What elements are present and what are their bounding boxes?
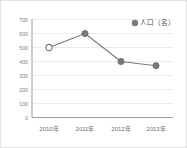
line-chart: 700 600 500 400 300 200 100 0 2010年 2011… <box>0 0 187 148</box>
data-point-2011[interactable] <box>82 30 88 36</box>
x-tick-label: 2012年 <box>111 125 130 133</box>
data-point-markers <box>46 30 159 68</box>
x-tick-label: 2010年 <box>39 125 58 133</box>
x-axis-tick-labels: 2010年 2011年 2012年 2013年 <box>39 125 165 133</box>
legend-label: 人口（名） <box>140 18 175 27</box>
data-point-2012[interactable] <box>118 58 124 64</box>
x-tick-label: 2011年 <box>76 125 95 133</box>
legend-marker-icon <box>132 20 138 26</box>
series-line-population <box>49 34 156 66</box>
y-tick-label: 400 <box>19 59 28 65</box>
chart-canvas: 700 600 500 400 300 200 100 0 2010年 2011… <box>1 1 187 148</box>
data-point-2010[interactable] <box>46 44 52 50</box>
y-tick-label: 700 <box>19 17 28 23</box>
data-point-2013[interactable] <box>153 63 159 69</box>
y-axis-tick-labels: 700 600 500 400 300 200 100 0 <box>19 17 28 121</box>
y-tick-label: 500 <box>19 45 28 51</box>
x-tick-label: 2013年 <box>146 125 165 133</box>
y-tick-label: 300 <box>19 73 28 79</box>
gridlines <box>32 20 173 104</box>
y-tick-label: 600 <box>19 31 28 37</box>
y-tick-label: 200 <box>19 87 28 93</box>
y-tick-label: 0 <box>25 115 28 121</box>
y-tick-label: 100 <box>19 101 28 107</box>
